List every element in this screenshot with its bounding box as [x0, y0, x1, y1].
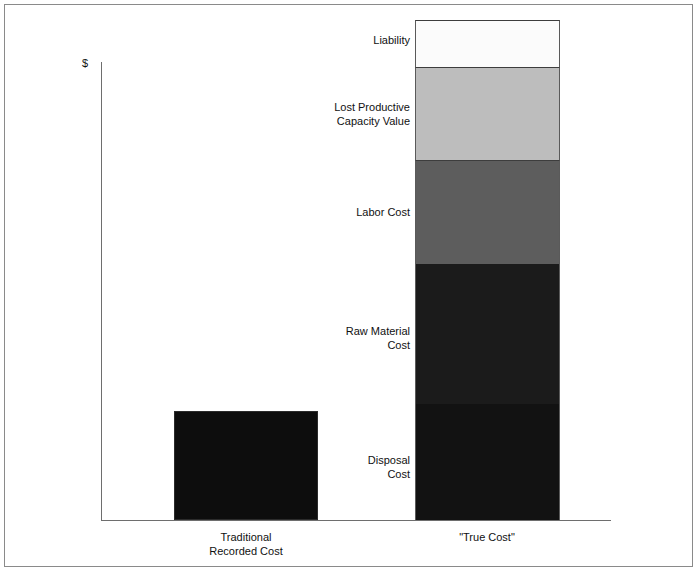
category-label-true-cost: "True Cost"	[407, 530, 567, 544]
bar-segment-liability	[415, 20, 560, 68]
segment-label-raw-material-cost: Raw Material Cost	[346, 324, 410, 352]
bar-segment-labor-cost	[415, 161, 560, 264]
x-axis-line	[101, 520, 611, 521]
bar-true-cost-stack	[415, 20, 560, 520]
segment-label-liability: Liability	[373, 33, 410, 47]
segment-label-lost-productive-capacity-value: Lost Productive Capacity Value	[334, 100, 410, 128]
stacked-bar-chart-figure: $ Liability Lost Productive Capacity Val…	[0, 0, 699, 573]
y-axis-title: $	[82, 57, 88, 69]
bar-segment-lost-productive-capacity-value	[415, 68, 560, 161]
bar-traditional-recorded-cost	[174, 411, 318, 520]
bar-segment-raw-material-cost	[415, 264, 560, 404]
category-label-traditional-recorded-cost: Traditional Recorded Cost	[166, 530, 326, 558]
segment-label-disposal-cost: Disposal Cost	[368, 453, 410, 481]
y-axis-line	[101, 62, 102, 521]
bar-segment-disposal-cost	[415, 404, 560, 520]
figure-frame	[4, 4, 693, 567]
segment-label-labor-cost: Labor Cost	[356, 205, 410, 219]
